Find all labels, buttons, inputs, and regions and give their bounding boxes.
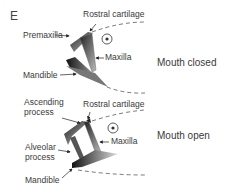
- label-mandible-closed: Mandible: [23, 71, 58, 81]
- mouth-closed-figure: [55, 22, 145, 93]
- panel-letter: E: [10, 9, 18, 23]
- state-mouth-open: Mouth open: [157, 130, 210, 141]
- label-premaxilla: Premaxilla: [23, 31, 63, 41]
- label-maxilla-closed: Maxilla: [105, 53, 131, 63]
- label-ascending-process-line2: process: [24, 108, 54, 118]
- label-rostral-cartilage-open: Rostral cartilage: [83, 100, 144, 110]
- label-alveolar-process-line2: process: [25, 153, 55, 163]
- state-mouth-closed: Mouth closed: [157, 57, 216, 68]
- label-maxilla-open: Maxilla: [111, 137, 137, 147]
- label-rostral-cartilage-closed: Rostral cartilage: [83, 10, 144, 20]
- label-mandible-open: Mandible: [25, 176, 60, 186]
